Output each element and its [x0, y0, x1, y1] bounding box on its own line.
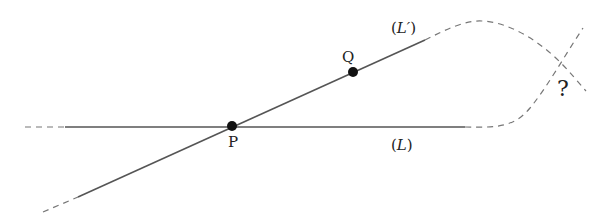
diagram-canvas: P Q (L′) (L) ?: [0, 0, 606, 219]
point-p-marker: [227, 121, 237, 131]
line-l-prime-label-close: ): [410, 19, 416, 37]
line-l-label-close: ): [407, 136, 413, 154]
point-p-label: P: [228, 135, 238, 150]
line-l-prime-label-name: L′: [397, 19, 410, 37]
point-q-label: Q: [342, 50, 354, 65]
line-l-prime-solid: [78, 40, 425, 197]
line-l-label-name: L: [397, 136, 407, 154]
line-l-prime-dashed-left: [43, 197, 78, 212]
point-q-marker: [348, 67, 358, 77]
unknown-intersection-label: ?: [557, 78, 569, 100]
line-l-prime-label: (L′): [391, 21, 416, 36]
line-l-label: (L): [391, 138, 413, 153]
diagram-svg: [0, 0, 606, 219]
